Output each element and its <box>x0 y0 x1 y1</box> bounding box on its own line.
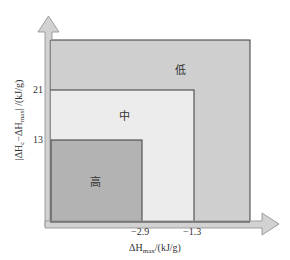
x-tick-minus-1-3: −1.3 <box>183 227 201 237</box>
x-tick-minus-2-9: −2.9 <box>131 227 149 237</box>
zone-medium-label: 中 <box>119 111 130 122</box>
zone-low-label: 低 <box>175 65 186 76</box>
diagram-canvas: 低 中 高 21 13 −2.9 −1.3 |ΔHc−ΔHmax| /(kJ/g… <box>0 0 290 260</box>
zone-high-label: 高 <box>90 177 101 188</box>
diagram-graphics <box>0 0 290 260</box>
y-axis-label: |ΔHc−ΔHmax| /(kJ/g) <box>13 80 26 161</box>
x-axis-label: ΔHmax/(kJ/g) <box>129 242 181 255</box>
y-tick-21: 21 <box>33 85 43 95</box>
y-tick-13: 13 <box>33 135 43 145</box>
